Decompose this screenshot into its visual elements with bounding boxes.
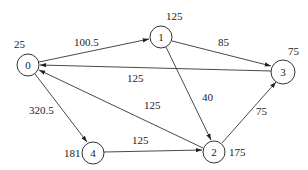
node-weight-1: 125 <box>166 10 183 22</box>
edge-label-1-3: 85 <box>218 36 230 48</box>
edge-label-2-3: 75 <box>256 105 268 117</box>
node-weight-0: 25 <box>14 38 26 50</box>
node-label-1: 1 <box>158 31 164 43</box>
node-label-3: 3 <box>280 66 286 78</box>
graph-diagram: 100.5 85 125 40 125 320.5 125 75 0 25 1 … <box>0 0 308 170</box>
node-3: 3 75 <box>271 45 300 84</box>
edge-4-2 <box>104 150 202 152</box>
edge-label-1-2: 40 <box>202 91 214 103</box>
edge-label-0-1: 100.5 <box>74 36 99 48</box>
node-weight-3: 75 <box>288 45 300 57</box>
edge-label-0-4: 320.5 <box>29 104 54 116</box>
node-4: 4 181 <box>64 142 104 164</box>
node-0: 0 25 <box>14 38 39 76</box>
edge-label-4-2: 125 <box>132 134 149 146</box>
node-weight-2: 175 <box>229 146 246 158</box>
node-weight-4: 181 <box>64 147 81 159</box>
node-label-0: 0 <box>25 59 31 71</box>
edge-2-3 <box>222 82 276 143</box>
node-2: 2 175 <box>203 141 246 163</box>
edge-label-2-0: 125 <box>144 99 161 111</box>
edge-label-3-0: 125 <box>127 72 144 84</box>
node-label-4: 4 <box>90 147 96 159</box>
edge-2-0 <box>39 70 203 148</box>
node-label-2: 2 <box>211 146 217 158</box>
edge-3-0 <box>40 65 271 71</box>
